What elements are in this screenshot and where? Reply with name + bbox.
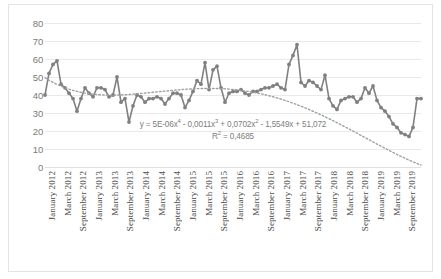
y-tick-label-80: 80 xyxy=(33,18,43,29)
data-point xyxy=(183,106,187,110)
data-point xyxy=(263,86,267,90)
x-tick-label: January 2012 xyxy=(47,171,57,220)
data-point xyxy=(415,97,419,101)
data-point xyxy=(259,88,263,92)
data-point xyxy=(91,95,95,99)
data-point xyxy=(175,91,179,95)
data-point xyxy=(243,91,247,95)
data-point xyxy=(51,63,55,67)
x-tick-label: March 2012 xyxy=(63,171,73,216)
x-tick-label: January 2019 xyxy=(376,171,386,220)
data-point xyxy=(303,84,307,88)
data-point xyxy=(387,115,391,119)
x-tick-label: March 2013 xyxy=(110,171,120,216)
data-point xyxy=(279,86,283,90)
x-tick-label: January 2016 xyxy=(235,171,245,220)
x-tick-label: March 2017 xyxy=(298,171,308,216)
data-point xyxy=(147,97,151,101)
data-point xyxy=(363,86,367,90)
data-point xyxy=(75,109,79,113)
x-tick-label: September 2015 xyxy=(219,171,229,231)
data-point xyxy=(403,133,407,137)
y-tick-label-0: 0 xyxy=(38,162,43,173)
data-point xyxy=(171,91,175,95)
y-tick-label-60: 60 xyxy=(33,54,43,65)
data-point xyxy=(367,91,371,95)
data-point xyxy=(391,122,395,126)
data-point xyxy=(67,91,71,95)
data-point xyxy=(247,93,251,97)
x-tick-label: January 2014 xyxy=(141,171,151,220)
data-point xyxy=(71,97,75,101)
data-point xyxy=(359,97,363,101)
x-tick-label: March 2015 xyxy=(204,171,214,216)
x-tick-label: January 2018 xyxy=(329,171,339,220)
chart-container: 80706050403020100 y = 5E-06x4 - 0,0011x3… xyxy=(0,0,441,279)
data-point xyxy=(103,88,107,92)
x-tick-label: March 2019 xyxy=(392,171,402,216)
data-point xyxy=(335,108,339,112)
data-point xyxy=(299,81,303,85)
x-tick-label: September 2012 xyxy=(78,171,88,231)
data-point xyxy=(331,104,335,108)
data-point xyxy=(211,68,215,72)
data-point xyxy=(83,86,87,90)
x-tick-label: March 2014 xyxy=(157,171,167,216)
y-tick-label-20: 20 xyxy=(33,126,43,137)
y-tick-label-50: 50 xyxy=(33,72,43,83)
data-point-markers xyxy=(43,43,423,139)
data-point xyxy=(95,86,99,90)
data-point xyxy=(155,95,159,99)
data-point xyxy=(223,100,227,104)
data-point xyxy=(291,54,295,58)
data-point xyxy=(191,90,195,94)
data-point xyxy=(195,79,199,83)
x-axis-labels: January 2012March 2012September 2012Janu… xyxy=(45,171,421,271)
data-point xyxy=(275,82,279,86)
data-point xyxy=(127,120,131,124)
gridline-0 xyxy=(45,167,421,168)
data-point xyxy=(311,81,315,85)
data-point xyxy=(407,135,411,139)
x-tick-label: September 2018 xyxy=(360,171,370,231)
data-point xyxy=(375,99,379,103)
x-tick-label: January 2015 xyxy=(188,171,198,220)
data-point xyxy=(351,95,355,99)
data-point xyxy=(115,75,119,79)
x-tick-label: September 2013 xyxy=(125,171,135,231)
data-point xyxy=(295,43,299,47)
data-point xyxy=(319,88,323,92)
series-layer xyxy=(45,23,421,167)
chart-frame: 80706050403020100 y = 5E-06x4 - 0,0011x3… xyxy=(8,4,433,272)
x-tick-label: January 2013 xyxy=(94,171,104,220)
y-tick-label-10: 10 xyxy=(33,144,43,155)
data-point xyxy=(315,84,319,88)
data-point xyxy=(123,97,127,101)
data-point xyxy=(267,86,271,90)
data-point xyxy=(371,84,375,88)
x-tick-label: September 2017 xyxy=(313,171,323,231)
data-point xyxy=(139,95,143,99)
data-point xyxy=(99,86,103,90)
data-point xyxy=(55,59,59,63)
data-point xyxy=(131,104,135,108)
data-point xyxy=(79,97,83,101)
data-point xyxy=(383,109,387,113)
x-tick-label: March 2018 xyxy=(345,171,355,216)
x-tick-label: September 2016 xyxy=(266,171,276,231)
data-point xyxy=(379,106,383,110)
x-tick-label: September 2019 xyxy=(407,171,417,231)
data-point xyxy=(203,61,207,65)
data-point xyxy=(419,97,423,101)
data-point xyxy=(159,97,163,101)
data-point xyxy=(163,102,167,106)
data-point xyxy=(167,97,171,101)
data-point xyxy=(327,97,331,101)
data-point xyxy=(151,97,155,101)
plot-area xyxy=(45,23,421,167)
data-point xyxy=(399,131,403,135)
data-point xyxy=(343,97,347,101)
data-point xyxy=(283,88,287,92)
data-point xyxy=(307,79,311,83)
y-axis-labels: 80706050403020100 xyxy=(17,23,43,167)
